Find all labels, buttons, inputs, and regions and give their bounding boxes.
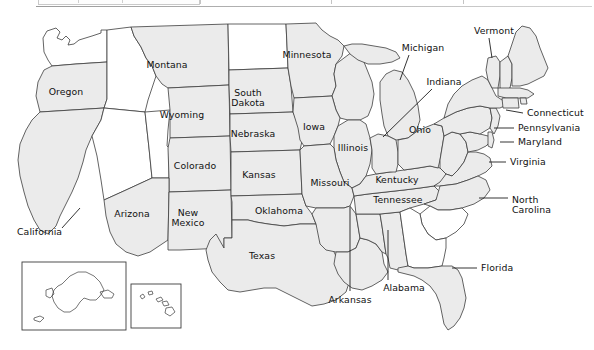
state-wyoming[interactable]	[168, 85, 230, 138]
leader-line-connecticut	[506, 110, 523, 113]
state-iowa[interactable]	[293, 96, 340, 146]
state-connecticut[interactable]	[502, 98, 519, 108]
state-nebraska[interactable]	[230, 112, 304, 152]
state-north-dakota[interactable]	[228, 24, 288, 70]
state-oregon[interactable]	[36, 62, 107, 112]
state-maine[interactable]	[508, 26, 548, 86]
state-new-jersey[interactable]	[490, 108, 500, 134]
state-michigan-lower[interactable]	[380, 70, 420, 140]
leader-line-california	[62, 208, 80, 228]
state-california[interactable]	[18, 108, 104, 234]
state-kansas[interactable]	[231, 150, 302, 196]
state-indiana[interactable]	[370, 134, 398, 174]
state-massachusetts[interactable]	[498, 88, 534, 98]
state-washington[interactable]	[43, 28, 107, 66]
state-new-mexico[interactable]	[168, 190, 232, 250]
hawaii-inset-box[interactable]	[131, 284, 181, 328]
leader-line-vermont	[489, 38, 492, 58]
state-florida[interactable]	[398, 266, 466, 330]
state-south-dakota[interactable]	[229, 68, 293, 114]
state-pennsylvania[interactable]	[434, 106, 492, 136]
state-colorado[interactable]	[168, 136, 231, 192]
state-delaware[interactable]	[488, 132, 494, 148]
state-rhode-island[interactable]	[520, 98, 527, 104]
map-canvas: OregonCaliforniaMontanaWyomingColoradoAr…	[0, 0, 594, 350]
us-map-svg	[0, 0, 594, 350]
